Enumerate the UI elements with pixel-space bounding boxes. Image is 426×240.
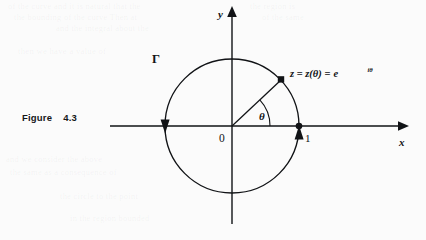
contour-label-gamma: Γ bbox=[152, 52, 160, 66]
z-label-part-e: e bbox=[333, 68, 338, 79]
x-axis-arrowhead-icon bbox=[398, 121, 409, 131]
y-axis-arrowhead-icon bbox=[227, 6, 237, 17]
z-label-part-z-of-theta: z(θ) bbox=[304, 68, 322, 80]
x-axis-label: x bbox=[398, 136, 405, 148]
point-marker-one bbox=[296, 123, 303, 130]
z-label-part-equals-2: = bbox=[324, 68, 330, 79]
y-axis-label: y bbox=[216, 8, 223, 20]
z-label-part-equals-1: = bbox=[297, 68, 303, 79]
svg-text:z=z(θ)=e: z=z(θ)=e bbox=[289, 68, 338, 80]
figure-diagram: y x 0 1 Γ θ z=z(θ)=e iθ bbox=[0, 0, 426, 240]
origin-label: 0 bbox=[219, 132, 225, 144]
point-label-one: 1 bbox=[305, 132, 311, 144]
angle-label-theta: θ bbox=[259, 110, 265, 122]
z-label-part-z: z bbox=[289, 68, 295, 79]
z-label-part-exponent: iθ bbox=[368, 66, 374, 73]
figure-page: of the curve and it is natural that the … bbox=[0, 0, 426, 240]
point-label-z: z=z(θ)=e iθ bbox=[289, 66, 373, 81]
point-marker-z bbox=[278, 76, 284, 82]
radius-line-to-z bbox=[232, 80, 281, 126]
